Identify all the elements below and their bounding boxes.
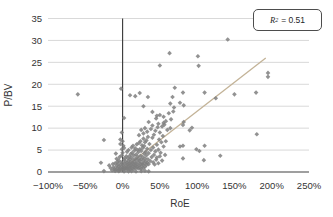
scatter-point (254, 90, 259, 95)
y-axis-title: P/BV (3, 84, 14, 107)
scatter-point (158, 130, 163, 135)
x-tick-label: 200% (260, 180, 285, 191)
scatter-point (181, 156, 186, 161)
scatter-point (196, 54, 201, 59)
scatter-point (137, 133, 142, 138)
scatter-point (167, 111, 172, 116)
scatter-point (225, 37, 230, 42)
scatter-point (114, 151, 119, 156)
scatter-point (120, 130, 125, 135)
scatter-point (172, 85, 177, 90)
scatter-point (167, 51, 172, 56)
y-tick-label: 5 (37, 144, 42, 155)
scatter-point (202, 90, 207, 95)
scatter-point (153, 128, 158, 133)
scatter-point (146, 120, 151, 125)
x-tick-label: 250% (297, 180, 322, 191)
scatter-point (266, 75, 271, 80)
scatter-point (178, 100, 183, 105)
y-tick-label: 0 (37, 166, 42, 177)
scatter-point (102, 169, 107, 174)
scatter-point (156, 161, 161, 166)
scatter-chart-svg: 05101520253035−100%−50%0%50%100%150%200%… (0, 0, 333, 217)
scatter-point (161, 144, 166, 149)
x-axis-title: RoE (170, 198, 189, 209)
x-tick-label: 150% (222, 180, 247, 191)
scatter-point (155, 125, 160, 130)
scatter-point (163, 153, 168, 158)
scatter-point (168, 101, 173, 106)
scatter-point (158, 63, 163, 68)
scatter-point (202, 143, 207, 148)
scatter-point (218, 153, 223, 158)
scatter-point (161, 134, 166, 139)
y-tick-label: 10 (31, 122, 42, 133)
scatter-point (232, 92, 237, 97)
scatter-point (102, 138, 107, 143)
scatter-point (266, 71, 271, 76)
scatter-point (181, 103, 186, 108)
scatter-point (99, 160, 104, 165)
scatter-point (202, 158, 207, 163)
scatter-point (169, 117, 174, 122)
y-tick-label: 15 (31, 101, 42, 112)
scatter-point (147, 142, 152, 147)
trendline-r2-legend: R2 = 0.51 (253, 9, 322, 31)
scatter-point (164, 139, 169, 144)
x-tick-label: 0% (116, 180, 130, 191)
scatter-point (146, 95, 151, 100)
scatter-point (196, 64, 201, 69)
scatter-chart: 05101520253035−100%−50%0%50%100%150%200%… (0, 0, 333, 217)
y-tick-label: 30 (31, 35, 42, 46)
r2-exponent: 2 (275, 17, 278, 23)
scatter-point (170, 95, 175, 100)
scatter-point (146, 169, 151, 174)
scatter-point (137, 91, 142, 96)
x-tick-label: −50% (73, 180, 98, 191)
scatter-point (150, 110, 155, 115)
scatter-point (141, 104, 146, 109)
y-tick-label: 20 (31, 79, 42, 90)
scatter-point (181, 90, 186, 95)
scatter-point (156, 121, 161, 126)
r2-value: = 0.51 (281, 15, 305, 25)
x-tick-label: 100% (185, 180, 210, 191)
y-tick-label: 35 (31, 13, 42, 24)
scatter-point (133, 94, 138, 99)
scatter-point (255, 132, 260, 137)
x-tick-label: −100% (33, 180, 63, 191)
scatter-point (213, 96, 218, 101)
scatter-point (76, 92, 81, 97)
scatter-point (128, 93, 133, 98)
scatter-point (160, 158, 165, 163)
x-tick-label: 50% (150, 180, 170, 191)
scatter-point (171, 109, 176, 114)
y-tick-label: 25 (31, 57, 42, 68)
